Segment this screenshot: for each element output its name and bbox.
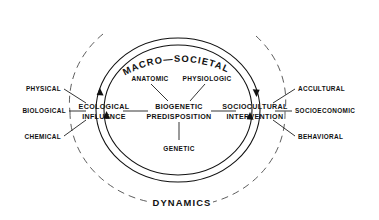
conceptual-cycle-diagram: MACRO—SOCIETAL DYNAMICS ECOLOGICAL INFLU…: [0, 0, 379, 220]
node-sociocultural-intervention-line2: INTERVENTION: [227, 113, 284, 121]
label-biological: BIOLOGICAL: [22, 107, 66, 114]
dashed-circle-icon: [213, 112, 285, 202]
arrow-up-icon: [97, 88, 104, 96]
node-sociocultural-intervention[interactable]: SOCIOCULTURAL INTERVENTION: [222, 103, 288, 121]
leader-physiologic: [190, 84, 205, 101]
label-anatomic: ANATOMIC: [131, 75, 168, 82]
node-biogenetic-predisposition-line2: PREDISPOSITION: [146, 113, 211, 121]
leader-anatomic: [151, 84, 168, 101]
label-physical: PHYSICAL: [26, 85, 61, 92]
leader-behavioral: [273, 120, 295, 136]
node-ecological-influence-line1: ECOLOGICAL: [79, 103, 130, 111]
node-ecological-influence-line2: INFLUENCE: [82, 113, 126, 121]
label-genetic: GENETIC: [163, 145, 194, 152]
dashed-circle-icon: [256, 36, 286, 112]
node-biogenetic-predisposition-line1: BIOGENETIC: [155, 103, 203, 111]
dynamics-title: DYNAMICS: [153, 197, 212, 208]
node-sociocultural-intervention-line1: SOCIOCULTURAL: [222, 103, 288, 111]
node-biogenetic-predisposition[interactable]: BIOGENETIC PREDISPOSITION: [146, 103, 211, 121]
leader-accultural: [273, 89, 295, 103]
leader-chemical: [64, 120, 86, 136]
label-socioeconomic: SOCIOECONOMIC: [295, 107, 355, 114]
label-chemical: CHEMICAL: [24, 133, 61, 140]
label-behavioral: BEHAVIORAL: [298, 133, 343, 140]
leader-physical: [64, 89, 86, 103]
dashed-circle-icon: [69, 34, 103, 112]
dashed-circle-icon: [70, 112, 150, 202]
label-physiologic: PHYSIOLOGIC: [183, 75, 232, 82]
macro-societal-title: MACRO—SOCIETAL: [121, 53, 232, 77]
label-accultural: ACCULTURAL: [298, 85, 345, 92]
diagram-canvas: MACRO—SOCIETAL DYNAMICS ECOLOGICAL INFLU…: [0, 0, 379, 220]
